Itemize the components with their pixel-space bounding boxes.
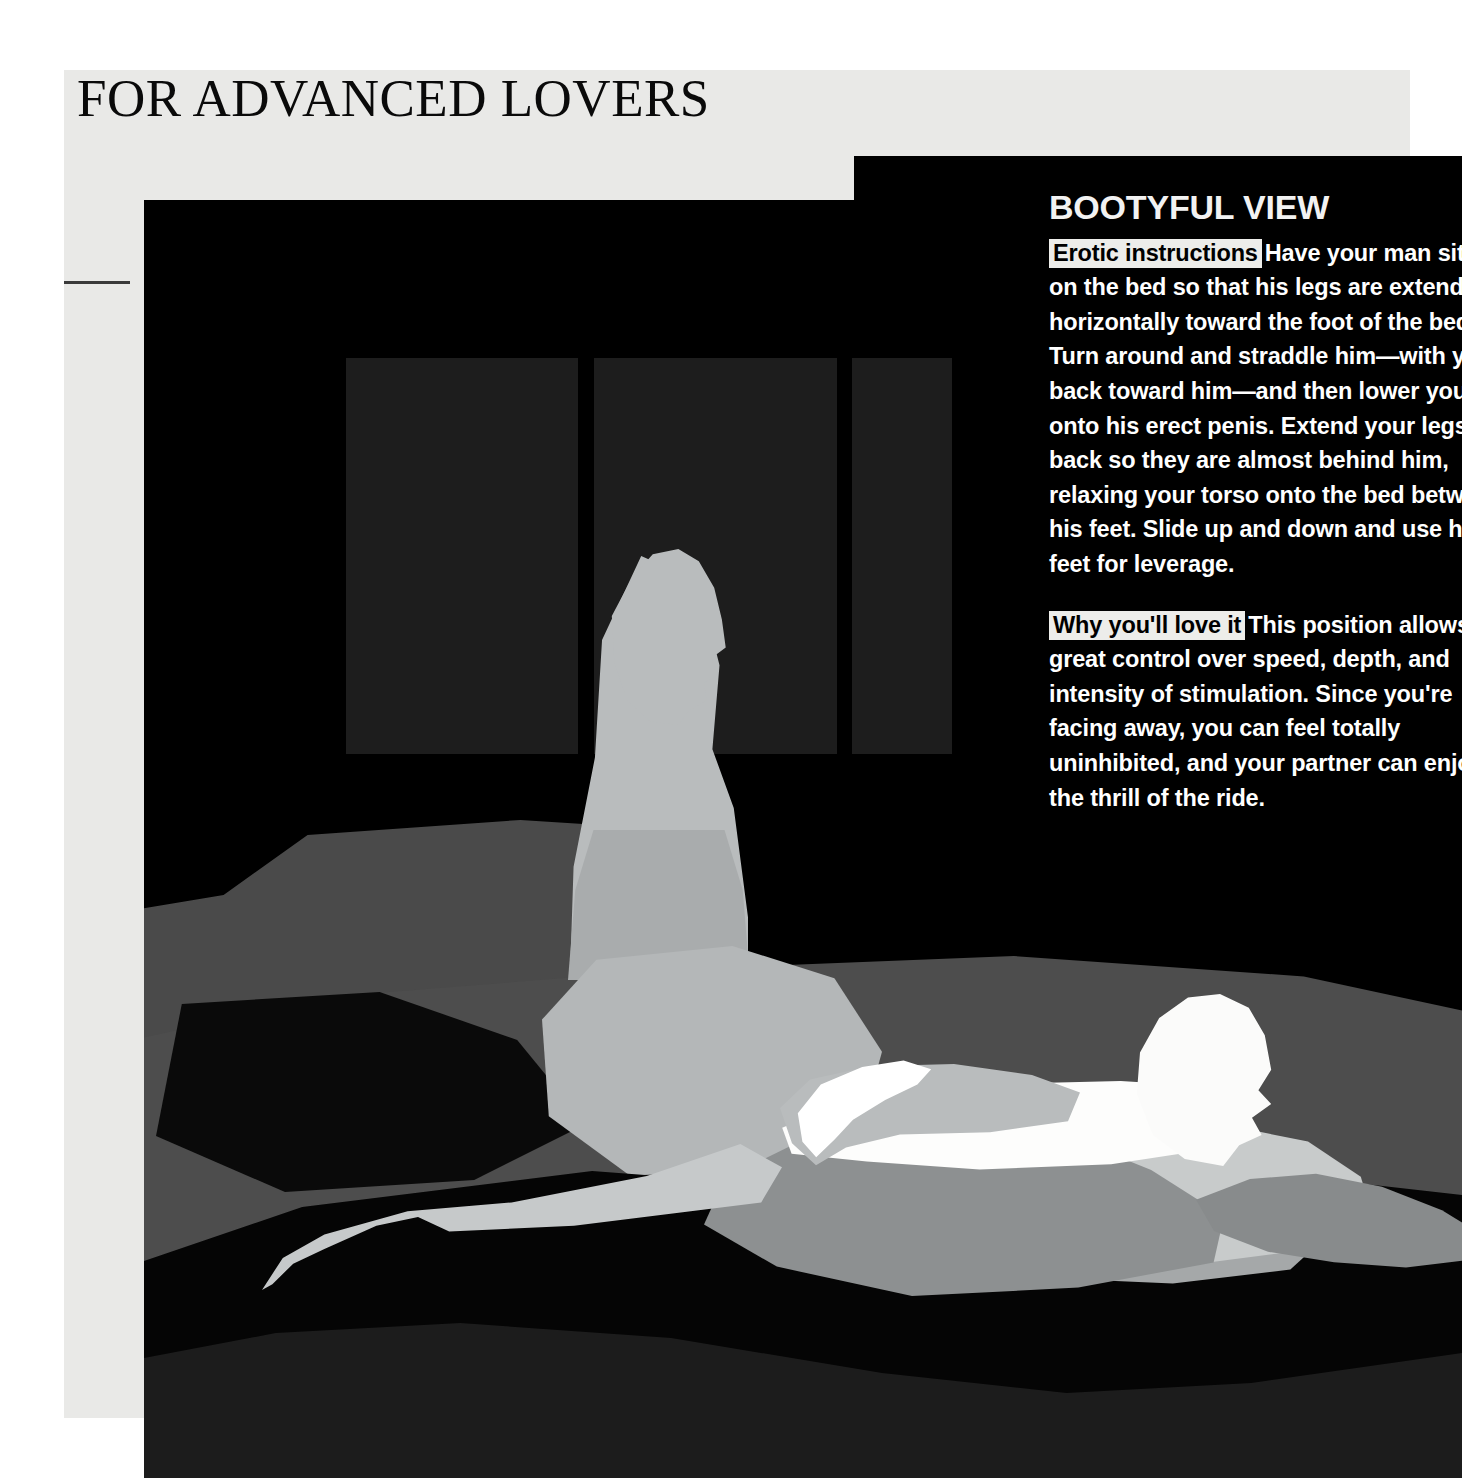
instructions-kicker: Erotic instructions [1049, 239, 1262, 268]
instructions-body: Have your man sit up on the bed so that … [1049, 240, 1462, 577]
instructions-paragraph: Erotic instructionsHave your man sit up … [1049, 236, 1462, 582]
benefits-kicker: Why you'll love it [1049, 611, 1245, 640]
window-panel-left [346, 358, 578, 754]
window-panel-right [852, 358, 952, 754]
left-margin-rule [64, 281, 130, 284]
masthead-banner: FOR ADVANCED LOVERS [64, 72, 790, 130]
article-title: BOOTYFUL VIEW [1049, 190, 1462, 226]
masthead-title: FOR ADVANCED LOVERS [77, 72, 710, 129]
magazine-page: BOOTYFUL VIEW Erotic instructionsHave yo… [64, 70, 1410, 1418]
benefits-paragraph: Why you'll love itThis position allows f… [1049, 608, 1462, 816]
masthead-notch [144, 156, 854, 200]
illustration-plate: BOOTYFUL VIEW Erotic instructionsHave yo… [144, 156, 1462, 1478]
article-copy-block: BOOTYFUL VIEW Erotic instructionsHave yo… [1049, 190, 1462, 841]
benefits-body: This position allows for great control o… [1049, 612, 1462, 811]
